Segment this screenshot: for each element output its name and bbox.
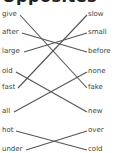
right-word-over: over [88,126,104,134]
right-word-none: none [88,67,105,75]
right-word-cold: cold [88,145,103,153]
left-word-all: all [2,107,10,115]
left-word-hot: hot [2,126,13,134]
left-word-old: old [2,67,13,75]
left-word-after: after [2,28,19,36]
left-word-under: under [2,145,23,153]
left-word-give: give [2,10,17,18]
right-word-before: before [88,47,111,55]
left-word-large: large [2,47,20,55]
matching-diagram: Opposites giveafterlargeoldfastallhotund… [0,0,118,153]
right-word-small: small [88,28,107,36]
right-word-fake: fake [88,83,103,91]
right-word-slow: slow [88,10,104,18]
right-word-new: new [88,107,102,115]
left-word-fast: fast [2,83,15,91]
